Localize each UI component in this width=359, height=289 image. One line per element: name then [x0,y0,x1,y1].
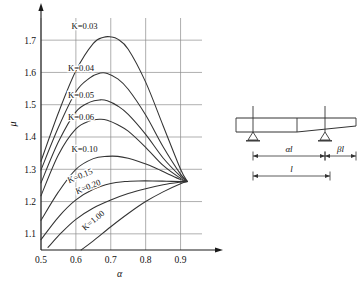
dim-span-l-arrow [253,174,258,178]
y-tick-label: 1.6 [24,68,36,78]
curve-label: K=0.04 [68,63,95,73]
curve-k-0-05 [41,100,188,183]
y-tick-label: 1.2 [24,197,36,207]
beam-bottom-face [236,126,356,132]
curve-label: K=0.05 [68,90,94,100]
x-axis-title: α [117,268,123,279]
y-tick-label: 1.4 [24,132,36,142]
y-axis-title: μ [7,121,18,127]
dim-beta-l-label: βl [336,144,344,154]
curve-label: K=0.03 [72,21,98,31]
dim-alpha-l-label: αl [285,144,293,154]
y-tick-label: 1.1 [24,229,36,239]
dim-alpha-l-arrow [320,154,325,158]
y-tick-label: 1.7 [24,36,36,46]
support-left-triangle [248,132,258,140]
curve-k-0-10 [41,156,188,220]
beam-diagram: αlβll [236,106,356,181]
curve-k-0-20 [48,182,188,248]
curve-k-0-03 [41,37,188,182]
dim-beta-l-arrow [351,154,356,158]
support-right-triangle [320,132,330,140]
x-tick-label: 0.9 [175,255,187,265]
y-axis-arrow [38,3,43,11]
x-tick-label: 0.5 [35,255,47,265]
x-axis-arrow [215,247,223,252]
dim-beta-l-arrow [325,154,330,158]
curve-label: K=1.00 [80,208,106,232]
x-tick-label: 0.6 [70,255,82,265]
plot-area: 1.11.21.31.41.51.61.70.50.60.70.80.9μαK=… [7,3,223,279]
dim-span-l-label: l [290,164,293,174]
figure-root: 1.11.21.31.41.51.61.70.50.60.70.80.9μαK=… [0,0,359,289]
y-tick-label: 1.5 [24,100,36,110]
curve-label: K=0.06 [68,112,95,122]
x-tick-label: 0.7 [105,255,117,265]
dim-span-l-arrow [325,174,330,178]
y-tick-label: 1.3 [24,165,36,175]
curve-k-0-04 [41,73,188,182]
curve-label: K=0.10 [72,144,98,154]
dim-alpha-l-arrow [253,154,258,158]
x-tick-label: 0.8 [140,255,152,265]
